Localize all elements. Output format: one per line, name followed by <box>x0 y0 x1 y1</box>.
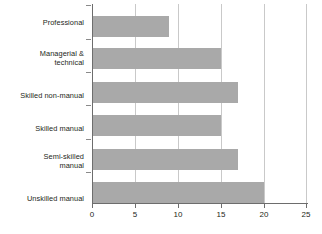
x-tick-label-5: 5 <box>125 210 145 219</box>
y-axis-label-line: Professional <box>0 18 84 27</box>
bar-chart: Professional Managerial & technical Skil… <box>0 0 322 234</box>
y-axis-label-unskilled-manual: Unskilled manual <box>0 194 84 203</box>
y-axis-label-line: manual <box>0 161 84 170</box>
y-axis-label-skilled-manual: Skilled manual <box>0 124 84 133</box>
gridline-20 <box>264 4 265 203</box>
bar-skilled-non-manual <box>92 82 238 103</box>
y-axis-category-labels: Professional Managerial & technical Skil… <box>0 8 88 203</box>
gridline-25 <box>306 4 307 203</box>
y-axis-label-semi-skilled-manual: Semi-skilled manual <box>0 152 84 170</box>
x-tick-mark <box>135 204 136 208</box>
x-tick-label-15: 15 <box>211 210 231 219</box>
x-tick-label-20: 20 <box>254 210 274 219</box>
bar-managerial-technical <box>92 48 221 69</box>
bar-skilled-manual <box>92 115 221 136</box>
y-axis-label-line: Semi-skilled <box>0 152 84 161</box>
y-axis-label-line: Unskilled manual <box>0 194 84 203</box>
y-axis-label-line: Managerial & <box>0 49 84 58</box>
gridline-10 <box>178 4 179 203</box>
plot-area <box>92 4 307 203</box>
y-tick-mark <box>86 139 91 140</box>
y-axis-label-line: technical <box>0 58 84 67</box>
x-tick-label-0: 0 <box>82 210 102 219</box>
y-tick-mark <box>86 72 91 73</box>
y-tick-mark <box>86 5 91 6</box>
y-axis-label-line: Skilled non-manual <box>0 91 84 100</box>
y-tick-mark <box>86 39 91 40</box>
bar-unskilled-manual <box>92 182 264 203</box>
y-axis-line <box>92 4 93 203</box>
y-tick-mark <box>86 172 91 173</box>
x-tick-mark <box>221 204 222 208</box>
y-axis-label-managerial-technical: Managerial & technical <box>0 49 84 67</box>
x-tick-label-10: 10 <box>168 210 188 219</box>
x-tick-mark <box>178 204 179 208</box>
bar-semi-skilled-manual <box>92 149 238 170</box>
x-tick-mark <box>264 204 265 208</box>
gridline-15 <box>221 4 222 203</box>
bar-professional <box>92 16 169 37</box>
y-axis-label-professional: Professional <box>0 18 84 27</box>
y-tick-mark <box>86 105 91 106</box>
y-axis-label-line: Skilled manual <box>0 124 84 133</box>
y-axis-label-skilled-non-manual: Skilled non-manual <box>0 91 84 100</box>
x-tick-mark <box>306 204 307 208</box>
x-axis-line <box>92 203 308 204</box>
x-tick-label-25: 25 <box>296 210 316 219</box>
x-tick-mark <box>92 204 93 208</box>
